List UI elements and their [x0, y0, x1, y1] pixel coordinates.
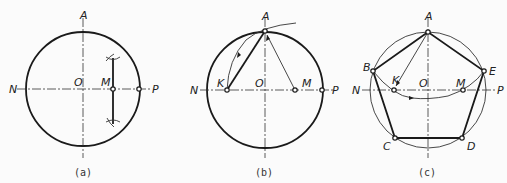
label-o-c: O [419, 77, 428, 90]
label-m-c: M [456, 77, 466, 90]
label-o-a: O [74, 76, 83, 89]
point-m-a [111, 87, 115, 91]
label-p-a: P [152, 83, 159, 96]
label-b-c: B [363, 61, 371, 74]
caption-b: (b) [255, 167, 273, 178]
label-e-c: E [489, 65, 496, 78]
label-m-b: M [302, 77, 312, 90]
arrow-head-arc-c [409, 96, 414, 100]
arc-b-to-e-c [373, 71, 484, 99]
label-p-c: P [497, 84, 504, 97]
panel-c: A B E C D N K O M P (c) [352, 10, 504, 178]
panel-b: A N K O M P (b) [190, 10, 339, 178]
diagram-canvas: A N O M P (a) A N K O [0, 0, 507, 183]
label-a-a: A [79, 9, 88, 22]
panel-a: A N O M P (a) [9, 9, 159, 178]
label-p-b: P [332, 84, 339, 97]
point-b-c [371, 69, 375, 73]
label-n-b: N [190, 84, 198, 97]
point-k-c [392, 88, 396, 92]
label-m-a: M [101, 76, 111, 89]
pentagon-construction-figure: A N O M P (a) A N K O [0, 0, 507, 183]
point-a-b [263, 29, 267, 33]
caption-a: (a) [74, 167, 92, 178]
label-n-a: N [9, 83, 17, 96]
line-ma-b [267, 35, 295, 90]
caption-c: (c) [418, 167, 436, 178]
arrow-head-arc-b [237, 52, 241, 58]
point-p-b [320, 88, 324, 92]
point-k-b [225, 88, 229, 92]
point-a-c [426, 30, 430, 34]
label-k-b: K [217, 77, 225, 90]
label-c-c: C [383, 140, 391, 153]
label-k-c: K [392, 74, 400, 87]
point-d-c [460, 136, 464, 140]
point-p-a [137, 87, 141, 91]
label-o-b: O [255, 77, 264, 90]
label-d-c: D [467, 140, 475, 153]
label-n-c: N [352, 84, 360, 97]
label-a-b: A [261, 10, 270, 23]
label-a-c: A [424, 10, 433, 23]
point-c-c [393, 136, 397, 140]
point-m-b [293, 88, 297, 92]
point-e-c [482, 69, 486, 73]
